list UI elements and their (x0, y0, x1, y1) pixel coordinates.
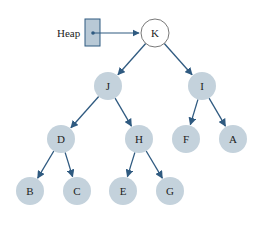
tree-node-A: A (219, 125, 247, 153)
node-label: F (183, 133, 189, 145)
tree-node-C: C (63, 177, 91, 205)
tree-node-B: B (16, 177, 44, 205)
edge-J-D (71, 96, 99, 127)
heap-pointer: Heap (57, 19, 139, 46)
node-label: K (151, 27, 159, 39)
edge-H-E (127, 152, 134, 176)
tree-node-J: J (94, 72, 122, 100)
node-label: D (57, 133, 65, 145)
edge-D-C (65, 152, 72, 176)
node-label: G (166, 185, 174, 197)
tree-nodes: KJIDHFABCEG (16, 19, 247, 205)
node-label: H (135, 133, 143, 145)
node-label: C (73, 185, 80, 197)
heap-tree-diagram: Heap KJIDHFABCEG (0, 0, 258, 226)
edge-K-J (118, 43, 146, 74)
node-label: A (229, 133, 237, 145)
tree-node-E: E (109, 177, 137, 205)
tree-node-G: G (156, 177, 184, 205)
node-label: I (200, 80, 204, 92)
tree-edges (38, 43, 226, 178)
node-label: B (26, 185, 33, 197)
edge-I-A (209, 98, 225, 126)
figure-caption: (b) Heap (100, 219, 160, 223)
heap-label: Heap (57, 27, 81, 39)
edge-D-B (38, 151, 54, 178)
node-label: E (120, 185, 127, 197)
edge-K-I (164, 43, 192, 74)
node-label: J (106, 80, 111, 92)
tree-node-D: D (47, 125, 75, 153)
tree-node-K: K (141, 19, 169, 47)
tree-node-H: H (125, 125, 153, 153)
edge-I-F (190, 99, 198, 124)
tree-node-F: F (172, 125, 200, 153)
tree-node-I: I (188, 72, 216, 100)
edge-H-G (146, 151, 162, 178)
edge-J-H (115, 98, 131, 126)
